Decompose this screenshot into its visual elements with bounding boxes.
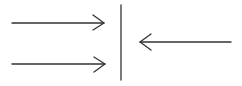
diagram-canvas <box>0 0 242 86</box>
arrow-right-bottom <box>12 57 105 72</box>
arrow-left <box>140 34 231 50</box>
arrow-right-top <box>12 15 104 30</box>
